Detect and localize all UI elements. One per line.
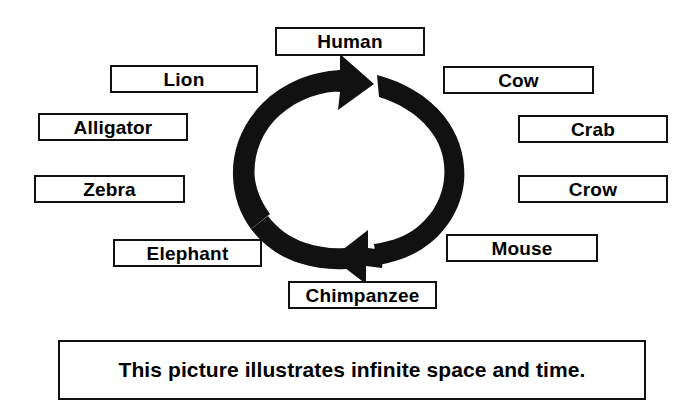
cycle-arrowhead-bottom (332, 230, 384, 284)
label-text-cow: Cow (498, 70, 539, 89)
caption-text: This picture illustrates infinite space … (118, 358, 585, 382)
cycle-arrowhead-top (326, 54, 374, 110)
label-text-elephant: Elephant (147, 243, 229, 262)
label-box-zebra[interactable]: Zebra (34, 175, 185, 203)
label-text-crab: Crab (571, 119, 615, 138)
label-box-human[interactable]: Human (275, 27, 425, 56)
label-text-crow: Crow (569, 179, 617, 198)
label-text-alligator: Alligator (74, 117, 153, 136)
cycle-arc-bottom-left (251, 216, 346, 269)
label-text-human: Human (317, 32, 382, 51)
label-text-mouse: Mouse (491, 238, 552, 257)
label-box-mouse[interactable]: Mouse (446, 234, 598, 262)
label-box-cow[interactable]: Cow (443, 66, 594, 94)
cycle-arc-left (233, 70, 345, 229)
label-box-alligator[interactable]: Alligator (38, 113, 188, 141)
label-box-crow[interactable]: Crow (518, 175, 668, 203)
label-box-crab[interactable]: Crab (518, 115, 668, 143)
diagram-canvas: Human Cow Crab Crow Mouse Chimpanzee Ele… (0, 0, 697, 414)
label-box-chimpanzee[interactable]: Chimpanzee (288, 281, 437, 309)
label-text-lion: Lion (164, 69, 205, 88)
label-box-lion[interactable]: Lion (110, 65, 258, 93)
caption-box: This picture illustrates infinite space … (58, 340, 646, 400)
label-text-zebra: Zebra (83, 179, 136, 198)
label-box-elephant[interactable]: Elephant (113, 239, 262, 267)
label-text-chimpanzee: Chimpanzee (306, 285, 420, 304)
